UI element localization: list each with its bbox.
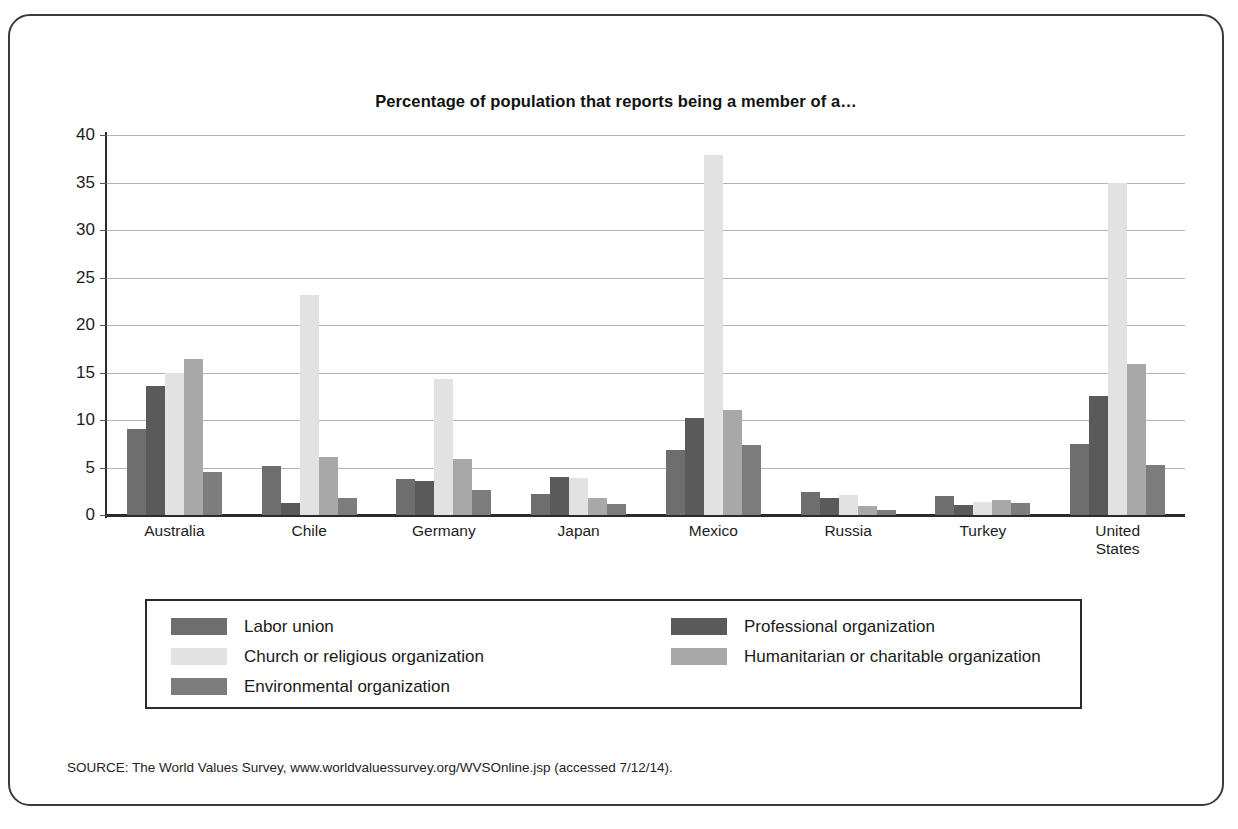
bar-group: Russia bbox=[781, 135, 916, 515]
legend-label: Professional organization bbox=[744, 617, 935, 637]
y-tick-mark-25 bbox=[100, 278, 107, 279]
bar-group-bars bbox=[107, 135, 242, 515]
y-tick-mark-40 bbox=[100, 135, 107, 136]
bar[interactable] bbox=[992, 500, 1011, 515]
x-tick-label: Mexico bbox=[689, 522, 738, 540]
bar[interactable] bbox=[203, 472, 222, 515]
legend-column-right: Professional organizationHumanitarian or… bbox=[671, 615, 1041, 707]
x-tick-label: Turkey bbox=[959, 522, 1006, 540]
y-tick-label-5: 5 bbox=[86, 458, 95, 478]
bar[interactable] bbox=[1108, 183, 1127, 515]
bar-group-bars bbox=[781, 135, 916, 515]
bar[interactable] bbox=[742, 445, 761, 515]
legend-label: Labor union bbox=[244, 617, 334, 637]
bar[interactable] bbox=[434, 379, 453, 515]
legend-swatch-icon bbox=[671, 648, 727, 665]
y-tick-label-35: 35 bbox=[76, 173, 95, 193]
bar[interactable] bbox=[262, 466, 281, 515]
bar-group-bars bbox=[511, 135, 646, 515]
bar[interactable] bbox=[184, 359, 203, 515]
bar[interactable] bbox=[396, 479, 415, 515]
y-tick-mark-0 bbox=[100, 515, 107, 516]
y-tick-mark-10 bbox=[100, 420, 107, 421]
bar[interactable] bbox=[415, 481, 434, 515]
bar[interactable] bbox=[607, 504, 626, 515]
legend-label: Humanitarian or charitable organization bbox=[744, 647, 1041, 667]
y-tick-mark-20 bbox=[100, 325, 107, 326]
bar[interactable] bbox=[127, 429, 146, 515]
bar-group-bars bbox=[242, 135, 377, 515]
bar[interactable] bbox=[165, 373, 184, 516]
legend-columns: Labor unionChurch or religious organizat… bbox=[147, 601, 1080, 707]
bar[interactable] bbox=[1089, 396, 1108, 515]
y-tick-mark-5 bbox=[100, 468, 107, 469]
y-tick-label-40: 40 bbox=[76, 125, 95, 145]
bar-group: Turkey bbox=[916, 135, 1051, 515]
legend-swatch-icon bbox=[671, 618, 727, 635]
bar[interactable] bbox=[666, 450, 685, 515]
y-tick-label-0: 0 bbox=[86, 505, 95, 525]
x-tick-label: Germany bbox=[412, 522, 476, 540]
bar[interactable] bbox=[531, 494, 550, 515]
bar[interactable] bbox=[801, 492, 820, 515]
y-tick-label-30: 30 bbox=[76, 220, 95, 240]
bar[interactable] bbox=[319, 457, 338, 515]
bar-group: United States bbox=[1050, 135, 1185, 515]
bar-group-bars bbox=[1050, 135, 1185, 515]
y-tick-label-20: 20 bbox=[76, 315, 95, 335]
bar[interactable] bbox=[723, 410, 742, 515]
bar-group: Mexico bbox=[646, 135, 781, 515]
legend-item[interactable]: Church or religious organization bbox=[171, 645, 671, 668]
bar[interactable] bbox=[877, 510, 896, 515]
bar-group: Germany bbox=[377, 135, 512, 515]
y-tick-mark-35 bbox=[100, 183, 107, 184]
bar[interactable] bbox=[1127, 364, 1146, 515]
bar[interactable] bbox=[820, 498, 839, 515]
legend-item[interactable]: Humanitarian or charitable organization bbox=[671, 645, 1041, 668]
bar[interactable] bbox=[1011, 503, 1030, 515]
bar[interactable] bbox=[858, 506, 877, 515]
legend-swatch-icon bbox=[171, 678, 227, 695]
bar-group-bars bbox=[916, 135, 1051, 515]
legend-item[interactable]: Environmental organization bbox=[171, 675, 671, 698]
bar[interactable] bbox=[954, 505, 973, 515]
plot-area: 0510152025303540 AustraliaChileGermanyJa… bbox=[107, 135, 1185, 515]
bar[interactable] bbox=[300, 295, 319, 515]
legend: Labor unionChurch or religious organizat… bbox=[145, 599, 1082, 709]
legend-swatch-icon bbox=[171, 618, 227, 635]
y-tick-label-10: 10 bbox=[76, 410, 95, 430]
bar[interactable] bbox=[704, 155, 723, 515]
bar-group-bars bbox=[646, 135, 781, 515]
bar[interactable] bbox=[973, 502, 992, 515]
bar[interactable] bbox=[685, 418, 704, 515]
legend-label: Church or religious organization bbox=[244, 647, 484, 667]
bar[interactable] bbox=[472, 490, 491, 515]
bar[interactable] bbox=[1146, 465, 1165, 515]
legend-item[interactable]: Labor union bbox=[171, 615, 671, 638]
y-tick-mark-30 bbox=[100, 230, 107, 231]
legend-item[interactable]: Professional organization bbox=[671, 615, 1041, 638]
bar[interactable] bbox=[453, 459, 472, 515]
legend-label: Environmental organization bbox=[244, 677, 450, 697]
bar[interactable] bbox=[281, 503, 300, 515]
bar-group: Australia bbox=[107, 135, 242, 515]
bar[interactable] bbox=[550, 477, 569, 515]
figure-frame: Percentage of population that reports be… bbox=[8, 14, 1224, 806]
bar-group: Japan bbox=[511, 135, 646, 515]
x-tick-label: United States bbox=[1095, 522, 1140, 558]
bar[interactable] bbox=[935, 496, 954, 515]
legend-column-left: Labor unionChurch or religious organizat… bbox=[171, 615, 671, 707]
source-note: SOURCE: The World Values Survey, www.wor… bbox=[67, 760, 673, 775]
y-tick-label-25: 25 bbox=[76, 268, 95, 288]
x-tick-label: Russia bbox=[824, 522, 871, 540]
x-tick-label: Australia bbox=[144, 522, 204, 540]
plot-inner: 0510152025303540 AustraliaChileGermanyJa… bbox=[107, 135, 1185, 515]
bar[interactable] bbox=[569, 478, 588, 515]
bar[interactable] bbox=[588, 498, 607, 515]
bar[interactable] bbox=[338, 498, 357, 515]
bar-group-bars bbox=[377, 135, 512, 515]
legend-swatch-icon bbox=[171, 648, 227, 665]
bar[interactable] bbox=[839, 495, 858, 515]
bar[interactable] bbox=[1070, 444, 1089, 515]
bar[interactable] bbox=[146, 386, 165, 515]
